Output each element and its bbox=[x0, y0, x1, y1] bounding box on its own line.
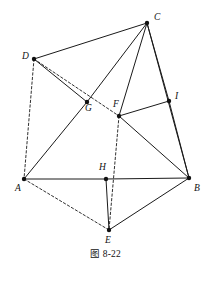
vertex-dot-i bbox=[167, 99, 171, 103]
dashed-edge-group bbox=[24, 59, 119, 230]
edge-a-e bbox=[24, 179, 109, 230]
vertex-label-a: A bbox=[15, 184, 21, 194]
edge-d-g bbox=[34, 59, 87, 102]
geometry-figure: ABCDEFGHI 图 8-22 bbox=[0, 0, 211, 281]
vertex-dot-c bbox=[145, 21, 149, 25]
edge-a-g bbox=[24, 102, 87, 179]
vertex-label-f: F bbox=[113, 100, 119, 110]
solid-edge-group bbox=[24, 23, 189, 230]
vertex-label-e: E bbox=[105, 236, 111, 246]
vertex-dot-a bbox=[22, 177, 26, 181]
edge-c-f bbox=[119, 23, 147, 116]
vertex-label-d: D bbox=[22, 52, 29, 62]
vertex-label-c: C bbox=[154, 13, 160, 23]
figure-caption: 图 8-22 bbox=[0, 249, 211, 259]
vertex-dot-f bbox=[117, 114, 121, 118]
vertex-dot-d bbox=[32, 57, 36, 61]
edge-h-b bbox=[106, 178, 189, 179]
vertex-label-b: B bbox=[194, 184, 200, 194]
edge-e-b bbox=[109, 178, 189, 230]
vertex-dot-e bbox=[107, 228, 111, 232]
vertex-label-i: I bbox=[175, 92, 178, 102]
edge-g-c bbox=[87, 23, 147, 102]
vertex-dot-b bbox=[187, 176, 191, 180]
edge-f-i bbox=[119, 101, 169, 116]
edge-d-f bbox=[34, 59, 119, 116]
vertex-dot-group bbox=[22, 21, 191, 232]
edge-h-e bbox=[106, 179, 109, 230]
edge-f-e bbox=[109, 116, 119, 230]
edge-d-c bbox=[34, 23, 147, 59]
vertex-label-g: G bbox=[85, 104, 92, 114]
vertex-label-h: H bbox=[99, 163, 106, 173]
edge-f-b bbox=[119, 116, 189, 178]
edge-i-b bbox=[169, 101, 189, 178]
edge-d-a bbox=[24, 59, 34, 179]
vertex-dot-h bbox=[104, 177, 108, 181]
